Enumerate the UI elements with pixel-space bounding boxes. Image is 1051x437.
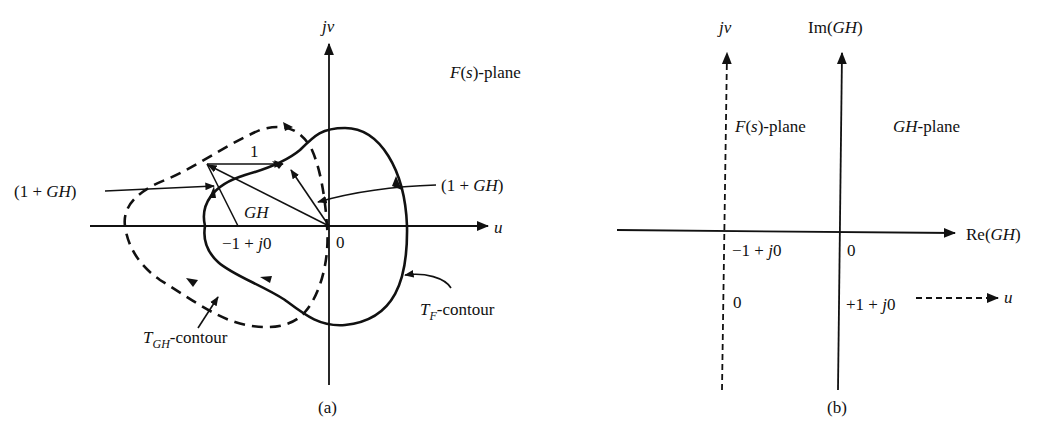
tf-contour-pointer: [405, 274, 451, 288]
tf-direction-arrow-icon: [209, 186, 216, 198]
tf-contour-label: TF-contour: [420, 300, 495, 323]
panel-b: jv Im(GH) Re(GH) F(s)-plane GH-plane −1 …: [617, 18, 1021, 417]
one-plus-gh-right-pointer: [318, 185, 436, 202]
panel-a-u-label: u: [494, 218, 503, 237]
gh-vector-label: GH: [244, 203, 270, 222]
one-plus-gh-left-label: (1 + GH): [14, 182, 76, 201]
panel-a-plane-label: F(s)-plane: [449, 63, 521, 82]
panel-b-origin-f-label: 0: [733, 293, 742, 312]
panel-a-jv-label: jv: [320, 17, 335, 36]
panel-b-fs-plane-label: F(s)-plane: [734, 117, 806, 136]
one-plus-gh-left-pointer: [105, 186, 214, 191]
critical-point-label: −1 + j0: [222, 234, 271, 253]
tgh-contour-pointer: [198, 297, 218, 328]
panel-b-caption: (b): [827, 398, 847, 417]
unit-vector-label: 1: [250, 142, 259, 161]
nyquist-mapping-figure: jv u 0 F(s)-plane 1 GH −1 + j0 (1 + GH) …: [0, 0, 1051, 437]
panel-b-jv-axis: [722, 53, 727, 390]
tgh-contour-label: TGH-contour: [143, 328, 228, 351]
tf-direction-arrow-icon: [260, 276, 272, 283]
panel-b-real-axis: [617, 230, 955, 233]
panel-b-imag-axis-label: Im(GH): [808, 18, 863, 37]
panel-b-jv-label: jv: [717, 18, 732, 37]
panel-b-gh-plane-label: GH-plane: [893, 117, 960, 136]
one-plus-gh-vector: [291, 170, 329, 226]
panel-b-minus-one-label: −1 + j0: [732, 241, 781, 260]
tgh-direction-arrow-icon: [186, 278, 198, 287]
panel-b-real-axis-label: Re(GH): [966, 225, 1021, 244]
panel-a-caption: (a): [318, 398, 337, 417]
panel-b-plus-one-label: +1 + j0: [846, 295, 895, 314]
panel-b-origin-gh-label: 0: [847, 241, 856, 260]
panel-b-u-label: u: [1004, 288, 1013, 307]
one-plus-gh-right-label: (1 + GH): [441, 176, 503, 195]
panel-a: jv u 0 F(s)-plane 1 GH −1 + j0 (1 + GH) …: [14, 17, 521, 417]
tgh-contour: [125, 127, 328, 327]
panel-b-imag-axis: [838, 53, 842, 390]
panel-a-origin-label: 0: [336, 233, 345, 252]
